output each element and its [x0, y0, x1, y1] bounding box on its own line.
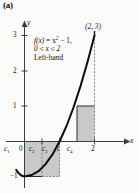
- x-tick-label-c2: c2: [29, 145, 35, 153]
- x-tick-label-c3: c3: [42, 145, 48, 153]
- caption-tail: − 1,: [58, 36, 71, 45]
- y-axis-label: y: [27, 18, 30, 27]
- x-tick-c2-sub: 2: [32, 149, 35, 154]
- riemann-sum-plot: [0, 0, 138, 193]
- x-tick-c1-sub: 1: [7, 149, 10, 154]
- point-label-2-3: (2, 3): [85, 22, 101, 31]
- rectangle-4: [77, 106, 95, 142]
- x-tick-label-0: 0: [19, 145, 23, 153]
- y-tick-label-2: 2: [13, 67, 17, 75]
- caption-line-rule: Left-hand: [34, 54, 72, 62]
- x-tick-c4-sub: 4: [70, 149, 73, 154]
- y-tick-label-3: 3: [13, 31, 17, 39]
- x-tick-label-2: 2: [91, 145, 95, 153]
- y-tick-label-1: 1: [13, 102, 17, 110]
- x-tick-label-c1: c1: [4, 145, 10, 153]
- function-caption: f(x) = x2 − 1, 0 ≤ x ≤ 2 Left-hand: [34, 37, 72, 62]
- x-tick-c3-sub: 3: [45, 149, 48, 154]
- x-tick-label-c4: c4: [67, 145, 73, 153]
- y-tick-label-neg1: −1: [10, 172, 18, 180]
- x-tick-label-1: 1: [56, 145, 60, 153]
- x-axis-label: x: [130, 136, 133, 145]
- figure-container: (a): [0, 0, 138, 193]
